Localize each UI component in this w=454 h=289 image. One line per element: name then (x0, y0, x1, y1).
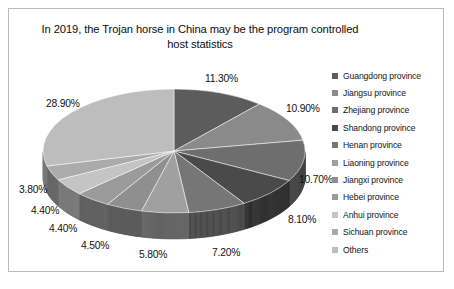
legend-item-label: Jiangxi province (343, 175, 403, 185)
legend-item-label: Sichuan province (343, 227, 407, 237)
legend-item-label: Zhejiang province (343, 105, 409, 115)
legend-swatch-icon (332, 247, 338, 253)
legend-item-label: Jiangsu province (343, 88, 406, 98)
legend-swatch-icon (332, 73, 338, 79)
pie-data-label: 7.20% (212, 247, 240, 258)
legend-item-label: Hebei province (343, 192, 399, 202)
pie-chart-plot-area: 11.30%10.90%10.70%8.10%7.20%5.80%4.50%4.… (9, 9, 444, 272)
pie-data-label: 3.80% (19, 184, 47, 195)
legend-item[interactable]: Hebei province (332, 189, 444, 206)
pie-data-label: 4.50% (81, 240, 109, 251)
legend-item[interactable]: Guangdong province (332, 67, 444, 84)
legend-item[interactable]: Henan province (332, 137, 444, 154)
legend-item[interactable]: Liaoning province (332, 154, 444, 171)
legend-item[interactable]: Jiangxi province (332, 171, 444, 188)
pie-data-label: 10.70% (299, 174, 333, 185)
legend-item[interactable]: Anhui province (332, 206, 444, 223)
pie-data-label: 8.10% (288, 214, 316, 225)
pie-data-label: 10.90% (286, 103, 320, 114)
pie-top-slices (43, 89, 305, 213)
legend-swatch-icon (332, 177, 338, 183)
legend-item-label: Others (343, 245, 368, 255)
chart-legend: Guangdong provinceJiangsu provinceZhejia… (332, 67, 444, 258)
legend-item-label: Guangdong province (343, 71, 421, 81)
legend-item-label: Liaoning province (343, 158, 409, 168)
legend-item-label: Shandong province (343, 123, 415, 133)
legend-swatch-icon (332, 229, 338, 235)
pie-data-label: 5.80% (139, 249, 167, 260)
legend-swatch-icon (332, 194, 338, 200)
pie-chart-svg (29, 65, 319, 245)
legend-item-label: Henan province (343, 140, 402, 150)
chart-frame: In 2019, the Trojan horse in China may b… (8, 8, 444, 272)
pie-data-label: 4.40% (31, 205, 59, 216)
pie-data-label: 4.40% (49, 223, 77, 234)
legend-swatch-icon (332, 107, 338, 113)
pie-data-label: 28.90% (46, 98, 80, 109)
legend-item-label: Anhui province (343, 210, 398, 220)
legend-swatch-icon (332, 212, 338, 218)
legend-item[interactable]: Jiangsu province (332, 84, 444, 101)
legend-swatch-icon (332, 160, 338, 166)
legend-item[interactable]: Sichuan province (332, 224, 444, 241)
legend-item[interactable]: Shandong province (332, 119, 444, 136)
legend-item[interactable]: Zhejiang province (332, 102, 444, 119)
pie-data-label: 11.30% (205, 73, 238, 84)
legend-item[interactable]: Others (332, 241, 444, 258)
legend-swatch-icon (332, 90, 338, 96)
legend-swatch-icon (332, 125, 338, 131)
legend-swatch-icon (332, 142, 338, 148)
